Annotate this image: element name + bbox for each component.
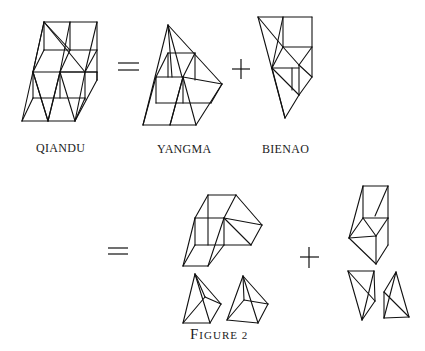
- edge: [227, 320, 258, 323]
- edge: [85, 22, 97, 72]
- edge: [195, 195, 208, 218]
- edge: [285, 95, 299, 118]
- edge: [170, 77, 183, 125]
- edge: [349, 236, 376, 238]
- edge: [227, 300, 244, 320]
- yangma-solid: [143, 25, 222, 125]
- figure-caption: FIGURE 2: [190, 326, 248, 343]
- edge: [258, 304, 268, 323]
- edge: [376, 218, 388, 236]
- figure-diagram: [0, 0, 425, 351]
- edge: [251, 225, 262, 245]
- edge: [349, 218, 363, 238]
- edge: [384, 317, 409, 318]
- edge: [362, 271, 374, 320]
- equals-sign-bottom: [108, 248, 128, 254]
- plus-sign-top: [232, 59, 250, 79]
- label-bienao: BIENAO: [262, 142, 309, 157]
- edge: [208, 218, 224, 266]
- bienao-tetrahedron-b: [384, 272, 409, 318]
- label-yangma: YANGMA: [157, 142, 211, 157]
- edge: [272, 17, 283, 68]
- edge: [224, 195, 236, 218]
- edge: [143, 77, 156, 125]
- edge: [211, 84, 222, 103]
- edge: [210, 304, 221, 323]
- edge: [48, 72, 60, 121]
- edge: [183, 245, 195, 266]
- edge: [243, 276, 258, 323]
- edge: [384, 272, 396, 292]
- edge: [22, 98, 33, 121]
- caption-initial: F: [190, 326, 199, 342]
- edge: [299, 65, 312, 77]
- edge: [44, 22, 85, 72]
- edge: [183, 53, 195, 77]
- edge: [33, 72, 48, 121]
- bienao-decomposed-prism: [349, 186, 388, 264]
- bienao-solid: [258, 17, 312, 118]
- edge: [283, 47, 299, 65]
- edge: [183, 77, 196, 125]
- label-qiandu: QIANDU: [36, 141, 85, 156]
- edge: [299, 47, 312, 65]
- edge: [376, 245, 388, 264]
- edge: [243, 276, 268, 304]
- bienao-tetrahedron-a: [348, 271, 375, 320]
- edge: [75, 72, 85, 121]
- plus-sign-bottom: [300, 247, 319, 268]
- edge: [227, 276, 243, 320]
- edge: [85, 50, 97, 72]
- yangma-pyramid-b: [227, 276, 268, 323]
- yangma-pyramid-a: [183, 274, 221, 323]
- edge: [33, 50, 44, 72]
- edge: [183, 218, 195, 266]
- edge: [195, 274, 221, 304]
- edge: [272, 68, 285, 118]
- qiandu-solid: [22, 22, 97, 121]
- edge: [208, 245, 224, 266]
- qiandu-decomposed-prism: [183, 195, 262, 266]
- edge: [375, 186, 388, 216]
- edge: [299, 77, 312, 95]
- edge: [349, 186, 363, 238]
- equals-sign-top: [118, 63, 139, 70]
- edge: [75, 80, 97, 121]
- edge: [60, 72, 75, 121]
- edge: [60, 50, 70, 72]
- edge: [349, 238, 376, 264]
- caption-rest: IGURE 2: [199, 329, 248, 341]
- edge: [384, 272, 396, 318]
- edge: [363, 218, 376, 236]
- edge: [374, 271, 375, 301]
- edge: [272, 47, 283, 68]
